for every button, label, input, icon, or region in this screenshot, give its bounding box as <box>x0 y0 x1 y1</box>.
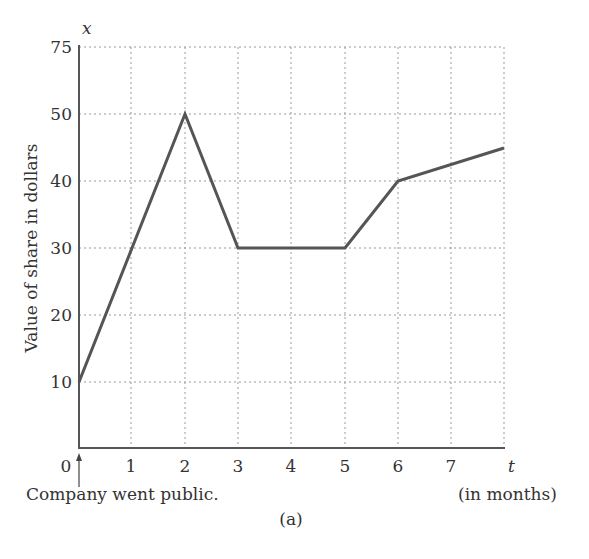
y-axis-label: Value of share in dollars <box>21 144 41 354</box>
chart: 75 50 40 30 20 10 0 1 2 3 4 5 6 7 x t (i… <box>0 0 589 559</box>
x-tick-1: 1 <box>126 456 137 476</box>
annotation-company-public: Company went public. <box>26 484 219 504</box>
x-tick-6: 6 <box>393 456 404 476</box>
x-axis-note: (in months) <box>458 484 557 504</box>
y-tick-30: 30 <box>50 238 72 258</box>
y-tick-10: 10 <box>50 372 72 392</box>
figure-caption: (a) <box>279 509 302 529</box>
x-tick-0: 0 <box>61 456 72 476</box>
x-axis-symbol: t <box>508 456 515 476</box>
y-tick-75: 75 <box>50 37 72 57</box>
arrow-up-icon <box>76 453 82 487</box>
x-tick-3: 3 <box>233 456 244 476</box>
x-tick-7: 7 <box>446 456 457 476</box>
x-tick-5: 5 <box>340 456 351 476</box>
y-tick-50: 50 <box>50 104 72 124</box>
y-tick-labels: 75 50 40 30 20 10 <box>50 37 72 392</box>
x-tick-2: 2 <box>180 456 191 476</box>
y-axis-symbol: x <box>82 18 92 38</box>
x-tick-4: 4 <box>286 456 297 476</box>
y-tick-40: 40 <box>50 171 72 191</box>
y-tick-20: 20 <box>50 305 72 325</box>
x-tick-labels: 0 1 2 3 4 5 6 7 <box>61 456 457 476</box>
